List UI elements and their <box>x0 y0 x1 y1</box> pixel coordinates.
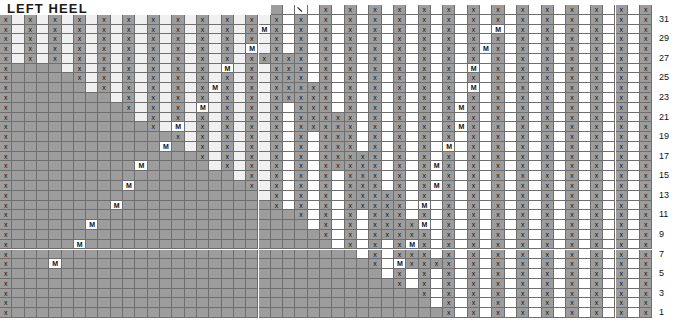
stitch-cell-knit[interactable]: x <box>542 181 554 191</box>
stitch-cell-knit[interactable]: x <box>616 93 628 103</box>
stitch-cell-knit[interactable]: x <box>542 220 554 230</box>
stitch-cell-knit[interactable]: x <box>295 25 307 35</box>
stitch-cell-knit[interactable]: x <box>271 171 283 181</box>
stitch-cell-blank[interactable] <box>332 298 344 308</box>
stitch-cell-blank[interactable] <box>98 298 110 308</box>
stitch-cell-blank[interactable] <box>234 289 246 299</box>
stitch-cell-blank[interactable] <box>111 259 123 269</box>
stitch-cell-blank[interactable] <box>529 132 541 142</box>
stitch-cell-blank[interactable] <box>628 152 640 162</box>
stitch-cell-knit[interactable]: x <box>394 142 406 152</box>
stitch-cell-blank[interactable] <box>49 289 61 299</box>
stitch-cell-knit[interactable]: x <box>369 113 381 123</box>
stitch-cell-blank[interactable] <box>160 132 172 142</box>
stitch-cell-blank[interactable] <box>603 259 615 269</box>
stitch-cell-blank[interactable] <box>246 298 258 308</box>
stitch-cell-knit[interactable]: x <box>382 210 394 220</box>
stitch-cell-knit[interactable]: x <box>148 15 160 25</box>
stitch-cell-knit[interactable]: x <box>74 73 86 83</box>
stitch-cell-knit[interactable]: x <box>443 152 455 162</box>
stitch-cell-blank[interactable] <box>49 279 61 289</box>
stitch-cell-blank[interactable] <box>234 269 246 279</box>
stitch-cell-blank[interactable] <box>529 152 541 162</box>
stitch-cell-blank[interactable] <box>529 54 541 64</box>
stitch-cell-blank[interactable] <box>234 171 246 181</box>
stitch-cell-blank[interactable] <box>529 113 541 123</box>
stitch-cell-knit[interactable]: x <box>443 240 455 250</box>
stitch-cell-blank[interactable] <box>382 54 394 64</box>
stitch-cell-blank[interactable] <box>234 161 246 171</box>
stitch-cell-blank[interactable] <box>135 308 147 318</box>
stitch-cell-blank[interactable] <box>505 44 517 54</box>
stitch-cell-blank[interactable] <box>431 113 443 123</box>
stitch-cell-blank[interactable] <box>98 181 110 191</box>
stitch-cell-knit[interactable]: x <box>468 93 480 103</box>
stitch-cell-blank[interactable] <box>246 250 258 260</box>
stitch-cell-knit[interactable]: x <box>419 161 431 171</box>
stitch-cell-blank[interactable] <box>234 132 246 142</box>
stitch-cell-blank[interactable] <box>603 93 615 103</box>
stitch-cell-blank[interactable] <box>320 269 332 279</box>
stitch-cell-blank[interactable] <box>529 122 541 132</box>
stitch-cell-knit[interactable]: x <box>616 15 628 25</box>
stitch-cell-blank[interactable] <box>554 220 566 230</box>
stitch-cell-blank[interactable] <box>234 73 246 83</box>
stitch-cell-knit[interactable]: x <box>369 5 381 15</box>
stitch-cell-knit[interactable]: x <box>566 230 578 240</box>
stitch-cell-blank[interactable] <box>222 210 234 220</box>
stitch-cell-blank[interactable] <box>357 210 369 220</box>
stitch-cell-blank[interactable] <box>12 250 24 260</box>
stitch-cell-knit[interactable]: x <box>394 161 406 171</box>
stitch-cell-knit[interactable]: x <box>566 122 578 132</box>
stitch-cell-blank[interactable] <box>554 308 566 318</box>
stitch-cell-blank[interactable] <box>148 171 160 181</box>
stitch-cell-blank[interactable] <box>406 279 418 289</box>
stitch-cell-blank[interactable] <box>382 298 394 308</box>
stitch-cell-knit[interactable]: x <box>591 161 603 171</box>
stitch-cell-knit[interactable]: x <box>222 142 234 152</box>
stitch-cell-blank[interactable] <box>529 259 541 269</box>
stitch-cell-blank[interactable] <box>406 210 418 220</box>
stitch-cell-knit[interactable]: x <box>308 122 320 132</box>
stitch-cell-knit[interactable]: x <box>419 5 431 15</box>
stitch-cell-blank[interactable] <box>209 54 221 64</box>
stitch-cell-blank[interactable] <box>455 25 467 35</box>
stitch-cell-knit[interactable]: x <box>0 171 12 181</box>
stitch-cell-blank[interactable] <box>406 142 418 152</box>
stitch-cell-blank[interactable] <box>222 240 234 250</box>
stitch-cell-knit[interactable]: x <box>443 122 455 132</box>
stitch-cell-blank[interactable] <box>111 191 123 201</box>
stitch-cell-blank[interactable] <box>431 289 443 299</box>
stitch-cell-knit[interactable]: x <box>74 15 86 25</box>
stitch-cell-blank[interactable] <box>172 142 184 152</box>
stitch-cell-blank[interactable] <box>160 122 172 132</box>
stitch-cell-blank[interactable] <box>74 210 86 220</box>
stitch-cell-knit[interactable]: x <box>345 171 357 181</box>
stitch-cell-blank[interactable] <box>579 44 591 54</box>
stitch-cell-blank[interactable] <box>123 250 135 260</box>
stitch-cell-blank[interactable] <box>86 44 98 54</box>
stitch-cell-knit[interactable]: x <box>517 230 529 240</box>
stitch-cell-blank[interactable] <box>332 54 344 64</box>
stitch-cell-blank[interactable] <box>480 279 492 289</box>
stitch-cell-blank[interactable] <box>25 220 37 230</box>
stitch-cell-knit[interactable]: x <box>148 113 160 123</box>
stitch-cell-blank[interactable] <box>62 220 74 230</box>
stitch-cell-knit[interactable]: x <box>468 240 480 250</box>
stitch-cell-blank[interactable] <box>86 279 98 289</box>
stitch-cell-blank[interactable] <box>37 34 49 44</box>
stitch-cell-blank[interactable] <box>111 230 123 240</box>
stitch-cell-knit[interactable]: x <box>443 5 455 15</box>
stitch-cell-knit[interactable]: x <box>222 73 234 83</box>
stitch-cell-blank[interactable] <box>308 210 320 220</box>
stitch-cell-knit[interactable]: x <box>345 220 357 230</box>
stitch-cell-blank[interactable] <box>62 34 74 44</box>
stitch-cell-blank[interactable] <box>37 15 49 25</box>
stitch-cell-blank[interactable] <box>455 240 467 250</box>
stitch-cell-knit[interactable]: x <box>591 220 603 230</box>
stitch-cell-knit[interactable]: x <box>357 201 369 211</box>
stitch-cell-knit[interactable]: x <box>394 5 406 15</box>
stitch-cell-knit[interactable]: x <box>271 191 283 201</box>
stitch-cell-knit[interactable]: x <box>492 308 504 318</box>
stitch-cell-knit[interactable]: x <box>640 308 652 318</box>
